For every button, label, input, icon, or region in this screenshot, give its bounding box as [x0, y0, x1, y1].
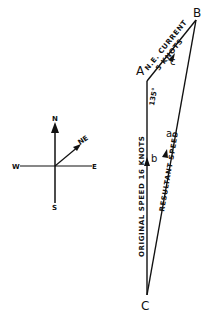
compass-northeast-label: NE: [77, 134, 90, 147]
compass-south-label: S: [52, 204, 57, 212]
compass-east-label: E: [92, 163, 97, 171]
original-speed-label: ORIGINAL SPEED 16 KNOTS: [138, 136, 146, 257]
resultant-speed-label: RESULTANT SPEED: [158, 131, 180, 213]
compass-rose: N S E W NE: [12, 115, 97, 212]
vector-b-label: b: [151, 153, 157, 164]
compass-west-label: W: [12, 163, 20, 171]
vector-diagram: N S E W NE A B C c b a 135° N.E. CURRENT…: [0, 0, 211, 320]
point-c-label: C: [141, 299, 149, 313]
north-arrow-icon: [51, 122, 59, 133]
point-b-label: B: [193, 6, 201, 20]
angle-label: 135°: [148, 87, 159, 106]
compass-north-label: N: [52, 115, 58, 123]
